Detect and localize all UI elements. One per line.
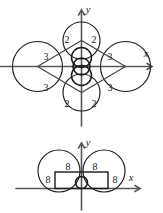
- top-figure-label-3-upper-right: 3: [108, 51, 113, 62]
- top-figure-label-3-lower-right: 3: [108, 82, 113, 93]
- top-figure-x-axis-label: x: [143, 48, 149, 59]
- bottom-figure-y-axis-label: y: [85, 137, 91, 148]
- top-figure-label-2-upper-right: 2: [92, 34, 97, 45]
- bottom-figure-label-8-top-right: 8: [93, 161, 98, 172]
- top-figure-label-3-lower-left: 3: [44, 82, 49, 93]
- bottom-figure-x-axis-label: x: [128, 172, 134, 183]
- geometry-diagram-svg: 2 2 3 3 3 3 2 2 x y: [0, 0, 163, 213]
- top-figure: 2 2 3 3 3 3 2 2 x y: [0, 4, 152, 126]
- bottom-figure-circle-left: [38, 150, 80, 192]
- top-figure-y-axis-label: y: [85, 4, 91, 15]
- figure-root: 2 2 3 3 3 3 2 2 x y: [0, 0, 163, 213]
- top-figure-label-2-upper-left: 2: [65, 34, 70, 45]
- bottom-figure-circle-right: [83, 150, 125, 192]
- top-figure-label-2-lower-right: 2: [92, 98, 97, 109]
- bottom-figure: 8 8 8 8 x y: [16, 137, 140, 210]
- bottom-figure-label-8-top-left: 8: [66, 161, 71, 172]
- top-figure-label-3-upper-left: 3: [44, 51, 49, 62]
- top-figure-label-2-lower-left: 2: [65, 98, 70, 109]
- bottom-figure-label-8-left: 8: [46, 174, 51, 185]
- bottom-figure-label-8-right: 8: [113, 174, 118, 185]
